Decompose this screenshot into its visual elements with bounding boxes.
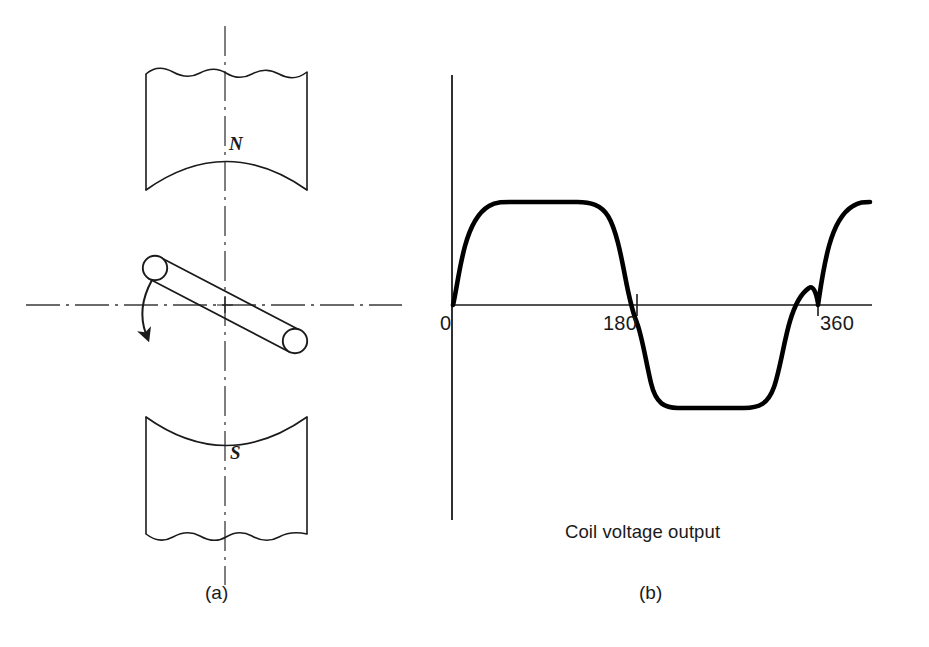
x-tick-label-180: 180 (603, 313, 637, 333)
north-pole-piece (146, 68, 307, 190)
rotation-direction-arrow (142, 280, 152, 334)
x-tick-label-0: 0 (440, 313, 451, 333)
figure-container: N S 0 180 360 Coil voltage output (a) (b… (0, 0, 929, 647)
x-tick-label-360: 360 (820, 313, 854, 333)
center-cross-marker (217, 297, 233, 313)
south-pole-piece (146, 417, 307, 540)
figure-illustration (0, 0, 929, 647)
north-pole-label: N (229, 134, 243, 153)
waveform-caption: Coil voltage output (565, 523, 720, 542)
south-pole-label: S (230, 443, 241, 462)
panel-label-b: (b) (639, 583, 662, 602)
panel-label-a: (a) (205, 583, 228, 602)
